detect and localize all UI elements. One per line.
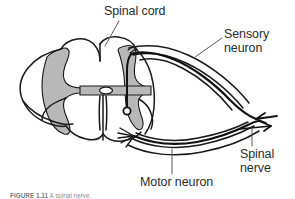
figure-caption-text: A spinal nerve.	[49, 192, 91, 199]
gray-matter-group	[42, 46, 151, 135]
label-spinal-cord: Spinal cord	[104, 5, 165, 19]
label-spinal-nerve: Spinal nerve	[240, 148, 290, 175]
central-canal	[100, 87, 113, 94]
leader-spinal-cord	[105, 21, 119, 46]
ventral-rootlets-group	[118, 128, 134, 147]
dorsal-root-inner-sheath	[133, 54, 243, 108]
label-sensory-neuron-line1: Sensory	[224, 28, 286, 42]
ventral-fissure-inner-right	[106, 96, 107, 130]
gray-matter-butterfly	[42, 48, 82, 134]
label-sensory-neuron-line2: neuron	[224, 42, 286, 56]
label-motor-neuron: Motor neuron	[140, 176, 213, 190]
figure-caption-number: FIGURE 1.11	[10, 192, 48, 199]
ventral-fissure-inner	[99, 96, 100, 130]
label-spinal-nerve-line1: Spinal	[240, 148, 290, 162]
ventral-left-horn-outline	[66, 126, 103, 140]
figure-container: Spinal cord Sensory neuron Spinal nerve …	[0, 0, 295, 199]
figure-caption: FIGURE 1.11 A spinal nerve.	[10, 192, 295, 199]
label-sensory-neuron: Sensory neuron	[224, 28, 286, 55]
sensory-cell-body	[123, 107, 130, 114]
gray-matter-commissure	[80, 86, 151, 95]
label-spinal-nerve-line2: nerve	[240, 162, 290, 176]
leader-sensory-neuron	[195, 38, 222, 57]
